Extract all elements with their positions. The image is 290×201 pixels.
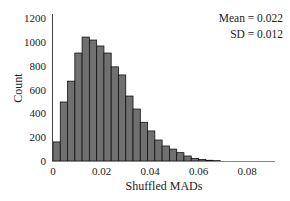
histogram-bar (126, 96, 133, 161)
histogram-bar (177, 153, 184, 161)
histogram-bar (184, 156, 191, 161)
histogram-bar (118, 75, 125, 161)
histogram-bar (169, 149, 176, 161)
histogram-bars (53, 37, 220, 161)
histogram-bar (104, 53, 111, 161)
x-tick-label: 0.06 (189, 165, 209, 177)
histogram-bar (60, 102, 67, 161)
histogram-bar (191, 158, 198, 161)
y-tick-label: 400 (30, 107, 47, 119)
x-axis-ticks: 00.020.040.060.08 (50, 165, 257, 177)
mean-annotation: Mean = 0.022 (219, 12, 284, 24)
y-axis-label: Count (11, 73, 25, 103)
histogram-bar (133, 109, 140, 161)
x-axis-label: Shuffled MADs (126, 179, 203, 193)
histogram-bar (111, 67, 118, 161)
histogram-bar (199, 160, 206, 161)
histogram-bar (155, 140, 162, 161)
y-tick-label: 1200 (24, 12, 47, 24)
y-tick-label: 600 (30, 84, 47, 96)
x-tick-label: 0.04 (140, 165, 160, 177)
x-tick-label: 0.08 (237, 165, 257, 177)
histogram-bar (82, 37, 89, 161)
histogram-bar (75, 53, 82, 161)
histogram-bar (206, 160, 213, 161)
x-tick-label: 0.02 (92, 165, 111, 177)
histogram-bar (89, 40, 96, 161)
y-tick-label: 200 (30, 131, 47, 143)
histogram-bar (68, 81, 75, 161)
histogram-chart: 020040060080010001200 00.020.040.060.08 … (0, 0, 290, 201)
histogram-bar (53, 142, 60, 161)
y-tick-label: 1000 (24, 36, 47, 48)
histogram-bar (148, 131, 155, 161)
sd-annotation: SD = 0.012 (230, 28, 283, 40)
histogram-bar (140, 122, 147, 161)
x-tick-label: 0 (50, 165, 56, 177)
histogram-bar (97, 46, 104, 161)
y-tick-label: 0 (41, 155, 47, 167)
histogram-bar (162, 146, 169, 161)
y-axis-ticks: 020040060080010001200 (24, 12, 47, 167)
y-tick-label: 800 (30, 60, 47, 72)
